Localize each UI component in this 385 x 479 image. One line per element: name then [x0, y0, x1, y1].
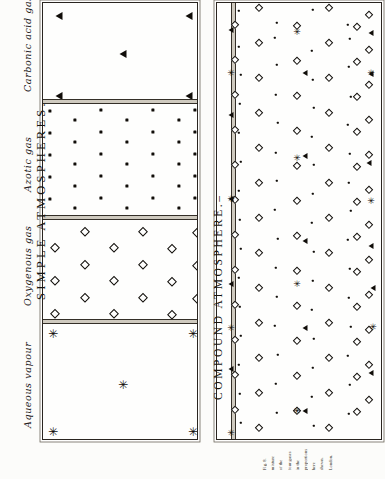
legend-caption-strip: Fig. 8. mixture of the four gases in the… — [262, 449, 333, 470]
panel-carbonic-acid-gas — [43, 3, 197, 99]
label-azotic-gas: Azotic gas — [22, 137, 33, 192]
panel-oxygenous-gas — [43, 218, 197, 319]
compound-atmosphere-plate: ✳ ✳ ✳ ✳ ✳ ✳ ✳ ✳ ✳ ✳ ✳ — [216, 2, 382, 440]
panel-aqueous-vapour: ✳ ✳ ✳ ✳ ✳ — [43, 322, 197, 440]
caption-item: of the — [278, 449, 283, 470]
simple-atmospheres-plate: ✳ ✳ ✳ ✳ ✳ — [42, 2, 198, 440]
engraved-plate: ✳ ✳ ✳ ✳ ✳ — [0, 0, 385, 479]
label-carbonic-acid-gas: Carbonic acid gas. — [22, 0, 33, 92]
page-title-simple: SIMPLE ATMOSPHERES. — [34, 100, 49, 300]
caption-item: in the — [295, 449, 300, 470]
page-title-compound: COMPOUND ATMOSPHERE.– — [212, 193, 224, 400]
label-oxygenous-gas: Oxygenous gas — [22, 226, 33, 307]
panel-azotic-gas — [43, 102, 197, 215]
caption-item: mixture — [270, 449, 275, 470]
caption-item: proportions — [303, 449, 308, 470]
label-aqueous-vapour: Aqueous vapour — [22, 342, 33, 428]
caption-item: four gases — [287, 449, 292, 470]
caption-item: here — [311, 449, 316, 470]
caption-item: London. — [328, 449, 333, 470]
compound-particle-field: ✳ ✳ ✳ ✳ ✳ ✳ ✳ ✳ ✳ ✳ ✳ — [217, 3, 381, 441]
caption-item: shewn. — [319, 449, 324, 470]
caption-item: Fig. 8. — [262, 449, 267, 470]
